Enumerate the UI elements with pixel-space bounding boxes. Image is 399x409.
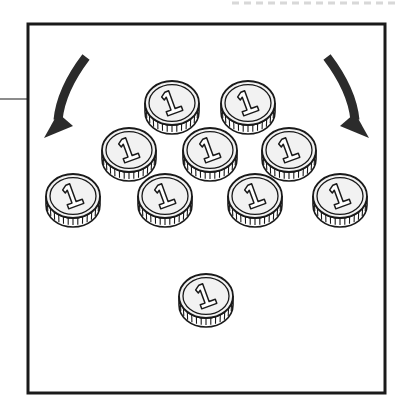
coin-bot-3: [228, 174, 282, 227]
coin-separate-1: [179, 274, 233, 327]
coin-mid-2: [183, 128, 237, 181]
coin-top-1: [145, 81, 199, 134]
coin-row-separate: [179, 274, 233, 327]
coin-mid-1: [102, 128, 156, 181]
coin-pile-illustration: [0, 0, 399, 409]
coin-row-middle: [102, 128, 316, 181]
illustration-stage: Coin grouping illustration Line-art diag…: [0, 0, 399, 409]
coin-top-2: [221, 81, 275, 134]
coin-bot-2: [138, 174, 192, 227]
coin-bot-4: [313, 174, 367, 227]
coin-bot-1: [46, 174, 100, 227]
coin-mid-3: [262, 128, 316, 181]
